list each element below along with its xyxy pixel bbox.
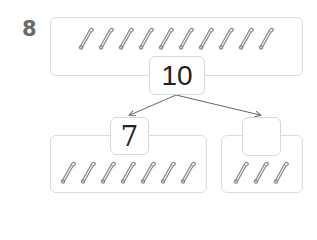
left-pins xyxy=(58,160,198,184)
left-number-box: 7 xyxy=(110,117,149,155)
whole-number-box: 10 xyxy=(149,56,205,95)
safety-pin-icon xyxy=(118,160,138,184)
safety-pin-icon xyxy=(58,160,78,184)
safety-pin-icon xyxy=(231,160,251,184)
answer-input-box[interactable] xyxy=(242,117,281,156)
left-value: 7 xyxy=(121,120,139,153)
safety-pin-icon xyxy=(78,160,98,184)
safety-pin-icon xyxy=(158,160,178,184)
safety-pin-icon xyxy=(251,160,271,184)
whole-value: 10 xyxy=(161,60,192,92)
right-pins xyxy=(231,160,291,184)
safety-pin-icon xyxy=(271,160,291,184)
safety-pin-icon xyxy=(178,160,198,184)
safety-pin-icon xyxy=(98,160,118,184)
safety-pin-icon xyxy=(138,160,158,184)
